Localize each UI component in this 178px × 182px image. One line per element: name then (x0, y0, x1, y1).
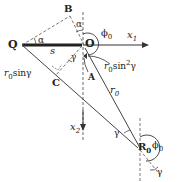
label-O: O (85, 38, 95, 49)
x2-arrowhead (80, 124, 86, 131)
dashed-Q-B (22, 16, 70, 45)
label-gamma-R0: γ (114, 129, 119, 138)
x1-arrowhead (142, 42, 149, 48)
label-r0-sin-gamma: r0sinγ (4, 69, 31, 81)
label-x2: x2 (70, 122, 80, 135)
label-gamma-mid: γ (71, 53, 76, 62)
pointer-A (84, 58, 88, 72)
label-r0-sin2-gamma: r0sin2γ (104, 60, 136, 74)
right-angle-C (52, 64, 62, 70)
geometry-diagram (0, 0, 178, 182)
label-alpha-top: α (76, 20, 82, 29)
gamma-arc-R0 (124, 130, 130, 133)
label-gamma-bottom: γ (157, 168, 162, 177)
label-A: A (88, 73, 95, 82)
label-R0: R0 (138, 142, 151, 154)
label-alpha-left: α (38, 36, 44, 45)
label-x1: x1 (127, 30, 137, 43)
label-C: C (52, 78, 60, 88)
label-s: s (50, 46, 55, 56)
label-phi0-top: ϕ0 (101, 28, 112, 41)
label-r0: r0 (110, 85, 119, 98)
label-B: B (64, 4, 72, 14)
label-Q: Q (8, 39, 18, 50)
pointer-r0sin2gamma-head (83, 53, 87, 59)
label-phi0-bottom: ϕ0 (152, 140, 163, 153)
